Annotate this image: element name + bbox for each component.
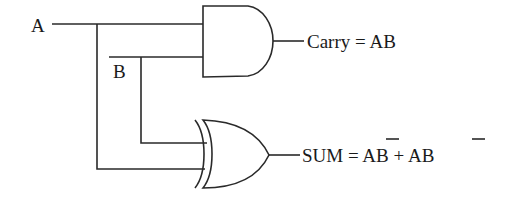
sum-term1-b: B (376, 145, 389, 166)
xor-gate-back-curve (195, 120, 204, 188)
half-adder-diagram: A B Carry = AB SUM = AB + AB (0, 0, 506, 201)
sum-prefix: SUM = (302, 145, 362, 166)
input-b-label: B (113, 61, 126, 82)
svg-text:SUM = AB + AB: SUM = AB + AB (302, 145, 434, 166)
sum-term1-a: A (362, 145, 376, 166)
carry-output-label: Carry = AB (307, 31, 396, 52)
wire-a-to-xor (97, 24, 205, 169)
sum-plus: + (389, 145, 408, 166)
sum-term2-b: B (422, 145, 435, 166)
xor-gate (203, 120, 269, 188)
sum-output-label: SUM = AB + AB (302, 139, 485, 166)
and-gate (203, 6, 273, 77)
sum-term2-a: A (408, 145, 422, 166)
wire-b-to-xor (141, 57, 207, 143)
input-a-label: A (31, 15, 45, 36)
